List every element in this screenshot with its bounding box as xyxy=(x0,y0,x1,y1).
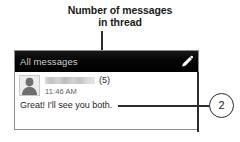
thread-header: (5) 11:46 AM xyxy=(19,75,194,96)
phone-screen-card: All messages xyxy=(14,50,199,130)
sender-line: (5) xyxy=(45,76,194,85)
app-title-bar: All messages xyxy=(15,51,198,72)
message-count-badge: (5) xyxy=(99,76,110,85)
callout-number-label: 2 xyxy=(218,100,224,111)
message-timestamp: 11:46 AM xyxy=(45,88,194,96)
app-title-label: All messages xyxy=(20,57,78,67)
thread-metadata: (5) 11:46 AM xyxy=(45,75,194,96)
annotation-caption-line-2: in thread xyxy=(44,17,196,29)
annotation-caption-line-1: Number of messages xyxy=(44,5,196,17)
sender-name-redacted xyxy=(45,77,95,84)
annotation-caption: Number of messages in thread xyxy=(44,5,196,28)
contact-avatar-icon xyxy=(19,75,40,96)
pencil-icon[interactable] xyxy=(179,54,194,69)
callout-marker-2: 2 xyxy=(209,93,234,118)
message-thread-row[interactable]: (5) 11:46 AM Great! I'll see you both. xyxy=(15,72,198,129)
callout-leader-vertical xyxy=(197,72,199,132)
